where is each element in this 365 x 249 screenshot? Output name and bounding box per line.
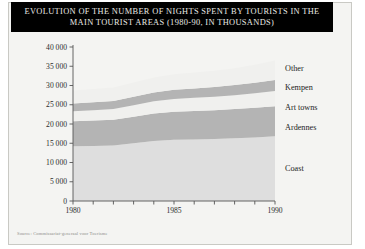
stacked-area-chart: 05 00010 00015 00020 00025 00030 00035 0… (9, 3, 353, 246)
source-note: Source: Commissariat-generaal voor Toeri… (17, 231, 108, 236)
chart-figure: 05 00010 00015 00020 00025 00030 00035 0… (8, 2, 352, 245)
chart-title-bar: EVOLUTION OF THE NUMBER OF NIGHTS SPENT … (11, 2, 333, 32)
y-tick-label: 40 000 (46, 43, 67, 52)
legend-label-coast: Coast (285, 164, 304, 173)
y-tick-label: 15 000 (46, 139, 67, 148)
x-axis-ticks: 198019851990 (65, 201, 282, 215)
x-tick-label: 1980 (65, 206, 80, 215)
y-tick-label: 10 000 (46, 158, 67, 167)
chart-plot-area: 05 00010 00015 00020 00025 00030 00035 0… (9, 3, 353, 246)
y-tick-label: 0 (63, 197, 67, 206)
area-series-group (73, 60, 275, 201)
legend-label-kempen: Kempen (285, 83, 313, 92)
area-band-coast (73, 136, 275, 201)
y-tick-label: 5 000 (50, 177, 67, 186)
y-tick-label: 25 000 (46, 100, 67, 109)
y-tick-label: 20 000 (46, 120, 67, 129)
legend-label-other: Other (285, 64, 304, 73)
chart-title-line-2: MAIN TOURIST AREAS (1980-90, IN THOUSAND… (70, 17, 274, 29)
chart-legend: OtherKempenArt townsArdennesCoast (285, 64, 318, 173)
x-tick-label: 1985 (166, 206, 181, 215)
y-axis-ticks: 05 00010 00015 00020 00025 00030 00035 0… (46, 43, 73, 206)
chart-title-line-1: EVOLUTION OF THE NUMBER OF NIGHTS SPENT … (24, 6, 319, 18)
y-tick-label: 35 000 (46, 62, 67, 71)
x-tick-label: 1990 (267, 206, 282, 215)
y-tick-label: 30 000 (46, 81, 67, 90)
legend-label-ardennes: Ardennes (285, 123, 316, 132)
legend-label-art-towns: Art towns (285, 103, 318, 112)
